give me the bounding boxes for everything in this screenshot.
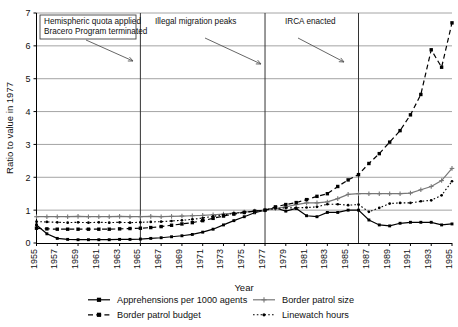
marker [316,215,319,218]
marker [284,203,287,206]
marker [45,227,48,230]
marker [170,224,173,227]
chart-figure: 01234567 1955195719591961196319651967196… [0,0,458,327]
marker [305,214,308,217]
x-tick-1969: 1969 [174,249,184,269]
x-tick-1955: 1955 [29,249,39,269]
marker [346,178,349,181]
x-tick-1993: 1993 [423,249,433,269]
marker [129,238,132,241]
y-axis-title: Ratio to value in 1977 [4,82,15,174]
marker [201,219,204,222]
y-tick-1: 1 [25,206,30,216]
marker [336,203,339,206]
marker [180,234,183,237]
marker [149,226,152,229]
marker [97,221,100,224]
marker [347,204,350,207]
marker [409,221,412,224]
marker [430,199,433,202]
marker [284,210,287,213]
marker [201,217,204,220]
marker [336,211,339,214]
marker [274,207,277,210]
legend-label-3: Linewatch hours [282,310,349,320]
marker [128,227,131,230]
marker [430,221,433,224]
marker [97,228,100,231]
marker [243,211,246,214]
marker [35,220,38,223]
x-tick-labels: 1955195719591961196319651967196919711973… [29,249,455,269]
marker [264,209,267,212]
legend-marker [262,313,265,316]
x-axis-title: Year [234,282,253,293]
legend-marker [97,313,101,317]
legend-marker [97,298,101,302]
marker [243,215,246,218]
x-tick-1981: 1981 [299,249,309,269]
x-tick-1989: 1989 [382,249,392,269]
marker [66,238,69,241]
marker [201,231,204,234]
marker [316,206,319,209]
x-tick-1967: 1967 [153,249,163,269]
marker [87,221,90,224]
marker [46,221,49,224]
x-tick-1979: 1979 [278,249,288,269]
marker [139,227,142,230]
marker [66,221,69,224]
marker [347,209,350,212]
marker [451,222,454,225]
marker [212,215,215,218]
marker [129,221,132,224]
marker [149,237,152,240]
marker [253,210,256,213]
marker [56,228,59,231]
marker [149,221,152,224]
x-tick-1959: 1959 [70,249,80,269]
marker [440,194,443,197]
marker [315,195,318,198]
y-tick-2: 2 [25,173,30,183]
marker [399,222,402,225]
marker [222,213,225,216]
y-tick-0: 0 [25,238,30,248]
marker [191,218,194,221]
marker [139,238,142,241]
marker [378,152,381,155]
marker [77,221,80,224]
x-tick-1985: 1985 [340,249,350,269]
marker [378,223,381,226]
marker [66,228,69,231]
marker [160,236,163,239]
x-tick-1975: 1975 [236,249,246,269]
x-tick-1995: 1995 [444,249,454,269]
annotation-text-irca: IRCA enacted [285,17,336,26]
legend-label-1: Border patrol size [282,295,354,305]
x-tick-1965: 1965 [132,249,142,269]
marker [108,238,111,241]
x-tick-1961: 1961 [91,249,101,269]
ratio-line-chart: 01234567 1955195719591961196319651967196… [0,0,458,327]
marker [232,219,235,222]
annotation-text2-hemispheric: Bracero Program terminated [44,27,148,36]
marker [367,219,370,222]
marker [233,212,236,215]
marker [388,202,391,205]
x-tick-1963: 1963 [112,249,122,269]
x-tick-1987: 1987 [361,249,371,269]
y-tick-4: 4 [25,107,30,117]
x-tick-1991: 1991 [402,249,412,269]
marker [77,238,80,241]
marker [160,220,163,223]
y-tick-5: 5 [25,74,30,84]
x-tick-marks [37,243,453,246]
marker [451,180,454,183]
x-tick-1977: 1977 [257,249,267,269]
marker [430,48,433,51]
marker [180,222,183,225]
marker [367,162,370,165]
marker [305,198,308,201]
y-tick-7: 7 [25,8,30,18]
